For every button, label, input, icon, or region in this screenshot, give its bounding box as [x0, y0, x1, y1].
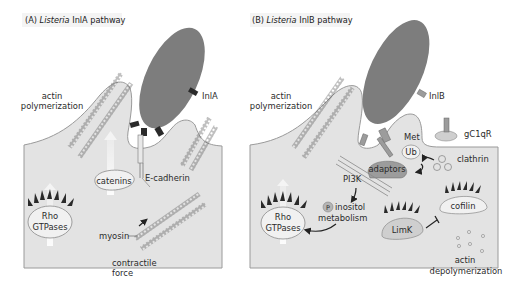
limk-label: LimK [392, 225, 413, 235]
gc1qr-stalk [444, 118, 449, 132]
inlb-receptor-fragment [359, 134, 367, 146]
pi3k-label: PI3K [343, 174, 362, 184]
actin-label-a: actin [42, 91, 63, 101]
cofilin-label: cofilin [451, 201, 476, 211]
depoly-label-2: depolymerization [430, 266, 503, 276]
catenins-label: catenins [96, 176, 131, 186]
panel-b: (B) Listeria InlB pathway InlB gC1qR Met… [250, 10, 503, 276]
force-label: force [112, 268, 133, 278]
inlb-label: InlB [429, 91, 445, 101]
actin-label-b2: polymerization [250, 101, 312, 111]
rho-label-b: Rho [275, 212, 291, 222]
inla-label: InlA [202, 91, 218, 101]
listeria-bacterium-a [126, 18, 219, 138]
clathrin-label: clathrin [457, 154, 489, 164]
panel-a: (A) Listeria InlA pathway InlA E-cadheri… [21, 13, 222, 278]
panel-a-title: (A) Listeria InlA pathway [25, 15, 126, 25]
panel-b-title: (B) Listeria InlB pathway [252, 15, 353, 25]
ub-label: Ub [405, 147, 416, 157]
gtpases-label-a: GTPases [33, 222, 68, 232]
inositol-label: inositol [335, 202, 365, 212]
gc1qr-label: gC1qR [464, 129, 492, 139]
actin-label-b: actin [271, 91, 292, 101]
adaptors-label: adaptors [368, 164, 405, 174]
phosphate-label: P [326, 204, 330, 212]
contractile-label: contractile [112, 258, 157, 268]
rho-label-a: Rho [42, 211, 58, 221]
gtpases-label-b: GTPases [266, 223, 301, 233]
inlb-protein [417, 89, 426, 97]
met-label: Met [404, 132, 420, 142]
myosin-label: myosin [99, 231, 129, 241]
figure-canvas: (A) Listeria InlA pathway InlA E-cadheri… [0, 0, 522, 294]
listeria-bacterium-b [349, 10, 443, 133]
gc1qr-receptor [435, 131, 457, 141]
e-cadherin-label: E-cadherin [145, 173, 190, 183]
metabolism-label: metabolism [318, 213, 367, 223]
actin-label-a2: polymerization [21, 101, 83, 111]
depoly-label-1: actin [455, 255, 476, 265]
inla-protein [130, 121, 140, 128]
